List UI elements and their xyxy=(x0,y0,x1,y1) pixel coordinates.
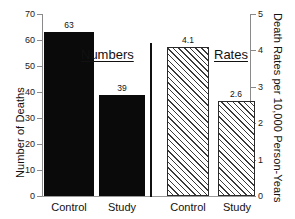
right-axis-tick-4 xyxy=(250,50,256,51)
bar-rates-control xyxy=(167,47,209,196)
right-axis-tick-3 xyxy=(250,87,256,88)
panel-divider xyxy=(150,43,152,197)
left-axis-tick-60 xyxy=(37,40,43,41)
left-axis-tick-label-50: 50 xyxy=(17,62,35,71)
left-axis-tick-20 xyxy=(37,144,43,145)
bar-rates-study xyxy=(218,101,255,196)
left-axis-tick-50 xyxy=(37,66,43,67)
left-axis-tick-40 xyxy=(37,92,43,93)
left-axis-tick-70 xyxy=(37,14,43,15)
left-axis-tick-label-60: 60 xyxy=(17,36,35,45)
value-label-numbers-study: 39 xyxy=(99,84,145,93)
value-label-rates-study: 2.6 xyxy=(216,90,256,99)
category-label-rates-study: Study xyxy=(207,201,267,213)
right-axis-title: Death Rates per 10,000 Person-Years xyxy=(272,13,284,203)
panel-label-rates: Rates xyxy=(214,47,248,62)
left-axis-title: Number of Deaths xyxy=(14,87,26,178)
right-axis-tick-5 xyxy=(250,14,256,15)
value-label-numbers-control: 63 xyxy=(44,21,94,30)
panel-label-numbers: Numbers xyxy=(81,47,134,62)
left-axis-tick-label-70: 70 xyxy=(17,10,35,19)
left-axis-tick-label-0: 0 xyxy=(17,192,35,201)
category-label-numbers-study: Study xyxy=(92,201,152,213)
chart-baseline xyxy=(42,196,251,197)
bar-numbers-study xyxy=(99,95,145,196)
left-axis-tick-30 xyxy=(37,118,43,119)
chart-figure: 70 60 50 40 30 20 10 0 Number of Deaths … xyxy=(0,0,295,219)
left-axis-tick-10 xyxy=(37,170,43,171)
value-label-rates-control: 4.1 xyxy=(167,36,209,45)
